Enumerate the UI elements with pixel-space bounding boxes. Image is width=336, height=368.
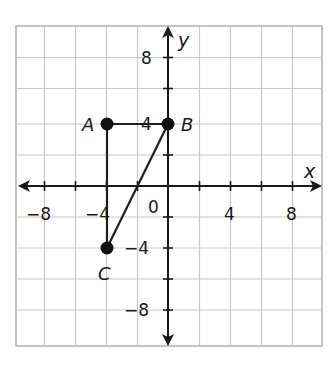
y-axis-label: y xyxy=(177,29,190,51)
x-axis xyxy=(18,180,322,192)
point-a-label: A xyxy=(81,114,94,135)
x-tick-4: 4 xyxy=(224,204,235,224)
y-tick-8: 8 xyxy=(141,48,152,68)
x-tick-8: 8 xyxy=(286,204,297,224)
y-tick-neg8: −8 xyxy=(124,300,149,320)
x-axis-label: x xyxy=(303,160,316,182)
point-c xyxy=(101,242,114,255)
point-c-label: C xyxy=(98,263,111,284)
x-tick-neg8: −8 xyxy=(26,204,51,224)
y-tick-neg4: −4 xyxy=(124,238,149,258)
y-tick-4: 4 xyxy=(141,114,152,134)
point-b xyxy=(162,118,175,131)
point-b-label: B xyxy=(181,114,193,135)
origin-label: 0 xyxy=(148,197,159,217)
point-a xyxy=(101,118,114,131)
coordinate-plane: −8 −4 0 4 8 8 4 −4 −8 y x A B C xyxy=(0,0,336,368)
x-tick-neg4: −4 xyxy=(85,204,110,224)
